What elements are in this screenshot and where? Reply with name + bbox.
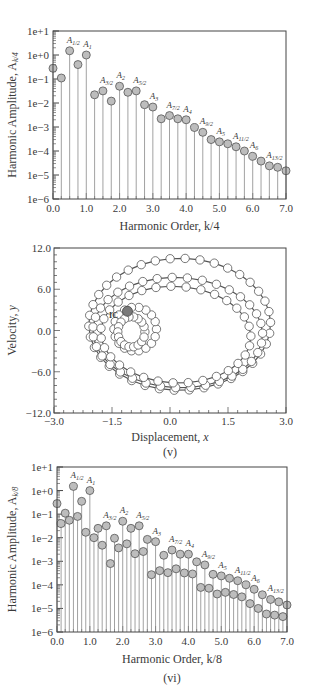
stem-marker: [209, 570, 217, 578]
stem-marker: [102, 522, 110, 530]
trajectory-point: [257, 319, 265, 327]
y-axis-label-subscript: k/8: [11, 487, 20, 497]
y-tick-label: 1e−4: [27, 145, 50, 157]
trajectory-point: [124, 266, 132, 274]
harmonic-annotation: A5: [217, 560, 227, 571]
harmonic-annotation: A5: [215, 126, 225, 137]
trajectory-point: [236, 293, 244, 301]
harmonic-annotation-subscript: 2: [122, 75, 125, 81]
x-tick-label: 3.0: [146, 202, 160, 214]
harmonic-annotation: A5/2: [135, 510, 149, 521]
harmonic-annotation-subscript: 1/2: [72, 40, 80, 46]
x-tick-label: 1.0: [79, 202, 93, 214]
stem-marker: [250, 585, 258, 593]
y-tick-label: 1e−3: [31, 555, 54, 567]
y-tick-label: 1e−5: [27, 169, 50, 181]
x-tick-label: 2.0: [116, 635, 130, 647]
harmonic-annotation-subscript: 3/2: [104, 80, 113, 86]
trajectory-point: [246, 278, 254, 286]
stem-marker: [258, 591, 266, 599]
harmonic-annotation-subscript: 7/2: [175, 539, 183, 545]
harmonic-annotation-subscript: 13/2: [273, 588, 284, 594]
trajectory-point: [96, 304, 104, 312]
y-tick-label: −6.0: [31, 366, 51, 378]
stem-marker: [156, 567, 164, 575]
trajectory-point: [233, 304, 241, 312]
stem-marker: [213, 590, 221, 598]
stem-marker: [143, 535, 151, 543]
harmonic-annotation-subscript: 9/2: [205, 121, 213, 127]
y-tick-label: −12.0: [26, 407, 52, 419]
panel-caption: (vi): [163, 671, 180, 685]
trajectory-point: [97, 334, 105, 342]
stem-marker: [279, 613, 287, 621]
stem-marker: [230, 590, 238, 598]
trajectory-point: [168, 273, 176, 281]
trajectory-point: [210, 290, 218, 298]
harmonic-annotation-subscript: 1: [92, 480, 95, 486]
harmonic-annotation: A13/2: [267, 583, 284, 594]
trajectory-point: [152, 325, 160, 333]
harmonic-annotation-subscript: 4: [189, 109, 192, 115]
stem-marker: [61, 509, 69, 517]
y-tick-label: 1e−5: [31, 602, 54, 614]
trajectory-point: [196, 256, 204, 264]
stem-marker: [232, 143, 240, 151]
harmonic-annotation-subscript: 11/2: [240, 570, 250, 576]
x-tick-label: 1.0: [83, 635, 97, 647]
trajectory-point: [89, 323, 97, 331]
harmonic-annotation: A1/2: [69, 470, 83, 481]
harmonic-annotation-subscript: 7/2: [172, 105, 180, 111]
trajectory-point: [169, 379, 177, 387]
x-axis-label-var: x: [202, 430, 209, 444]
trajectory-point: [261, 297, 269, 305]
trajectory-point: [91, 313, 99, 321]
harmonic-annotation: A7/2: [168, 534, 182, 545]
stem-marker: [197, 583, 205, 591]
trajectory-point: [254, 287, 262, 295]
stem-marker: [226, 574, 234, 582]
trajectory-point: [245, 322, 253, 330]
stem-marker: [119, 517, 127, 525]
stem-marker: [82, 528, 90, 536]
trajectory-point: [241, 351, 249, 359]
x-axis-label: Harmonic Order, k/8: [122, 652, 222, 666]
stem-marker: [141, 101, 149, 109]
stem-marker: [189, 570, 197, 578]
y-axis-label: Harmonic Amplitude, Ak/8: [5, 487, 20, 612]
stem-marker: [66, 47, 74, 55]
harmonic-annotation: A3/2: [102, 510, 116, 521]
trajectory-point: [100, 344, 108, 352]
y-tick-label: 0.0: [37, 325, 51, 337]
x-tick-label: 6.0: [246, 202, 260, 214]
chart-harmonic-amplitude-k4: 1e+11e+01e−11e−21e−31e−41e−51e−60.01.02.…: [0, 0, 309, 240]
stem-marker: [57, 74, 65, 82]
y-tick-label: 12.0: [32, 242, 52, 254]
stem-marker: [262, 610, 270, 618]
trajectory-point: [140, 333, 148, 341]
x-axis-label: Displacement, x: [131, 430, 209, 444]
harmonic-annotation: A1: [82, 39, 92, 50]
stem-marker: [275, 598, 283, 606]
stem-marker: [215, 138, 223, 146]
y-tick-label: 1e−1: [27, 73, 49, 85]
harmonic-annotation-subscript: 5: [222, 131, 225, 137]
trajectory-point: [139, 373, 147, 381]
harmonic-annotation-subscript: 5/2: [139, 80, 147, 86]
y-axis-label: Harmonic Amplitude, Ak/4: [5, 52, 20, 177]
x-tick-label: 5.0: [213, 202, 227, 214]
stem-marker: [91, 91, 99, 99]
chart-phase-portrait: −3.0−1.50.01.53.012.06.00.0−6.0−12.0ICDi…: [0, 240, 309, 468]
x-tick-label: 6.0: [247, 635, 261, 647]
y-axis-label: Velocity, y: [5, 305, 19, 356]
trajectory-point: [125, 291, 133, 299]
stem-marker: [265, 162, 273, 170]
stem-marker: [166, 112, 174, 120]
stem-marker: [139, 548, 147, 556]
harmonic-annotation: A6: [249, 140, 259, 151]
trajectory-point: [245, 342, 253, 350]
trajectory-point: [258, 329, 266, 337]
panel-vi: 1e+11e+01e−11e−21e−31e−41e−51e−60.01.02.…: [0, 458, 309, 697]
harmonic-annotation-subscript: 5/2: [142, 515, 150, 521]
x-tick-label: 2.0: [113, 202, 127, 214]
